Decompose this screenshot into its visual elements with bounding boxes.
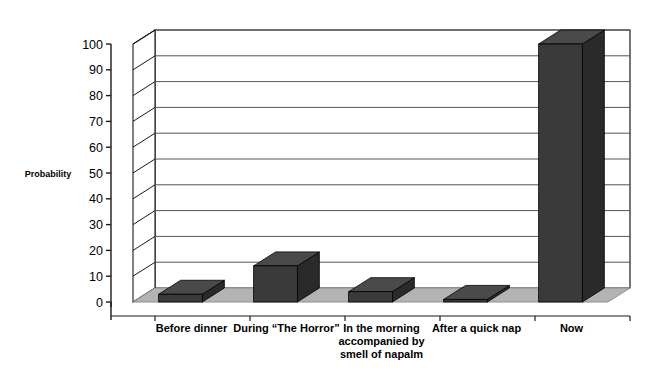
x-axis-category-label: Now (560, 322, 584, 334)
x-axis-category-label: accompanied by (338, 335, 425, 347)
y-axis-tick-label: 30 (89, 218, 103, 232)
y-axis-tick-label: 50 (89, 167, 103, 181)
y-axis-title: Probability (25, 169, 72, 179)
y-axis-tick-label: 70 (89, 115, 103, 129)
y-axis-tick-label: 0 (96, 296, 103, 310)
x-axis-category-label: During “The Horror” (233, 322, 339, 334)
chart-container: 0102030405060708090100Before dinnerDurin… (0, 0, 660, 371)
bar-front-face (349, 292, 393, 302)
y-axis-tick-label: 100 (82, 38, 103, 52)
x-axis-category-label: Before dinner (156, 322, 228, 334)
bar-front-face (254, 266, 298, 302)
bar-chart-3d: 0102030405060708090100Before dinnerDurin… (0, 0, 660, 371)
y-axis-tick-label: 80 (89, 89, 103, 103)
x-axis-category-label: After a quick nap (432, 322, 522, 334)
y-axis-tick-label: 40 (89, 192, 103, 206)
y-axis-tick-label: 60 (89, 141, 103, 155)
y-axis-tick-label: 90 (89, 63, 103, 77)
bar-column[interactable] (254, 252, 320, 302)
bar-front-face (444, 299, 488, 302)
bar-column[interactable] (539, 30, 605, 302)
bar-side-face (582, 30, 604, 302)
x-axis-category-label: smell of napalm (340, 348, 423, 360)
bar-front-face (539, 44, 583, 302)
x-axis-category-label: In the morning (343, 322, 419, 334)
y-axis-tick-label: 10 (89, 270, 103, 284)
y-axis-tick-label: 20 (89, 244, 103, 258)
bar-front-face (159, 294, 203, 302)
